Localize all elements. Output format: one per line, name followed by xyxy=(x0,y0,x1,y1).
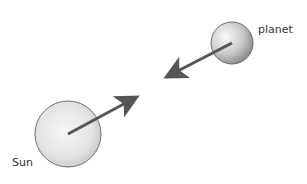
planet-label: planet xyxy=(258,23,293,36)
sun-label: Sun xyxy=(12,156,33,169)
diagram-canvas: planet Sun xyxy=(0,0,307,184)
